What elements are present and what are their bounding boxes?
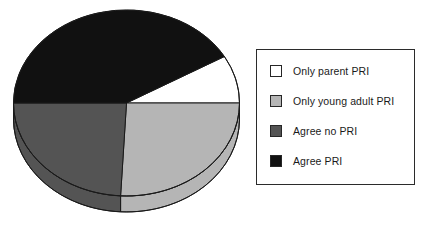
- legend: Only parent PRI Only young adult PRI Agr…: [256, 49, 415, 185]
- legend-item-only-young-adult-pri[interactable]: Only young adult PRI: [270, 91, 394, 111]
- legend-swatch-icon: [270, 125, 282, 137]
- pie-top-faces: [14, 10, 240, 196]
- legend-item-agree-pri[interactable]: Agree PRI: [270, 151, 342, 171]
- legend-swatch-icon: [270, 65, 282, 77]
- pie-slice[interactable]: [14, 103, 127, 196]
- chart-canvas: Only parent PRI Only young adult PRI Agr…: [0, 0, 426, 240]
- legend-item-label: Only young adult PRI: [293, 95, 394, 107]
- pie-slice[interactable]: [121, 103, 240, 196]
- legend-item-only-parent-pri[interactable]: Only parent PRI: [270, 61, 369, 81]
- legend-swatch-icon: [270, 95, 282, 107]
- legend-item-label: Only parent PRI: [293, 65, 369, 77]
- legend-item-agree-no-pri[interactable]: Agree no PRI: [270, 121, 357, 141]
- legend-items: Only parent PRI Only young adult PRI Agr…: [270, 59, 412, 177]
- legend-item-label: Agree PRI: [293, 155, 342, 167]
- legend-item-label: Agree no PRI: [293, 125, 357, 137]
- legend-swatch-icon: [270, 155, 282, 167]
